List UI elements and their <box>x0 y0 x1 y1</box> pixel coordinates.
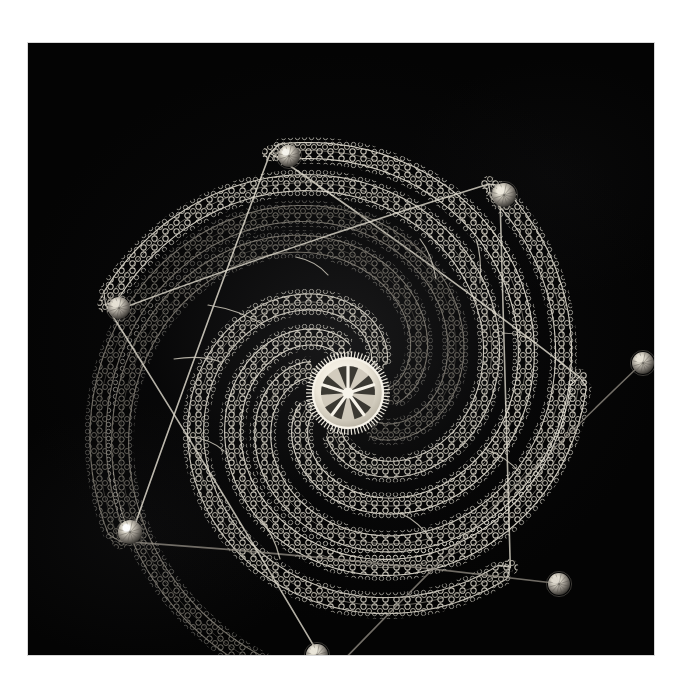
bead-highlight <box>112 301 119 308</box>
page-root: Photograph of a handmade spiral tatted-l… <box>0 0 683 691</box>
bead-highlight <box>310 648 317 655</box>
crystal-bead <box>546 571 571 596</box>
spiral-lace-ornament <box>28 43 654 655</box>
bead-highlight <box>123 524 130 531</box>
crystal-bead <box>116 518 143 545</box>
bead-highlight <box>497 187 504 194</box>
crystal-bead <box>490 181 517 208</box>
photograph-frame <box>28 43 654 655</box>
center-medallion <box>306 351 390 435</box>
bead-highlight <box>552 577 559 584</box>
crystal-bead <box>630 350 654 375</box>
crystal-bead <box>106 295 131 320</box>
medallion-group <box>306 351 390 435</box>
crystal-bead <box>276 143 301 168</box>
medallion-hub <box>343 388 354 399</box>
bead-highlight <box>282 149 289 156</box>
bead-highlight <box>636 356 643 363</box>
crystal-bead <box>304 642 329 655</box>
